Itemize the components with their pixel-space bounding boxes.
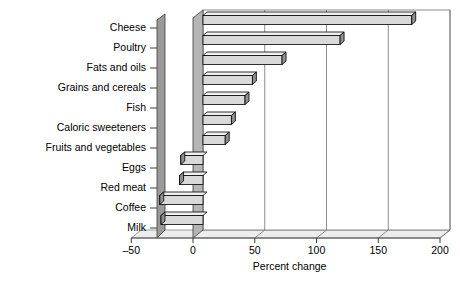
bar-10 xyxy=(161,212,207,225)
bar-face-9 xyxy=(160,196,203,205)
x-tick-label-0: 0 xyxy=(190,244,196,256)
category-label-5: Caloric sweeteners xyxy=(57,121,146,133)
bar-2 xyxy=(203,52,286,65)
bar-face-6 xyxy=(203,136,225,145)
bar-6 xyxy=(203,132,229,145)
category-label-0: Cheese xyxy=(110,21,146,33)
x-tick-label-50: 50 xyxy=(249,244,261,256)
bar-7 xyxy=(181,152,207,165)
bar-top-2 xyxy=(203,52,286,56)
bar-face-3 xyxy=(203,76,252,85)
category-label-8: Red meat xyxy=(100,181,146,193)
category-label-3: Grains and cereals xyxy=(58,81,146,93)
bar-top-5 xyxy=(203,112,235,116)
category-label-2: Fats and oils xyxy=(86,61,146,73)
x-axis-title: Percent change xyxy=(253,260,327,272)
x-tick-label-200: 200 xyxy=(431,244,449,256)
category-label-4: Fish xyxy=(126,101,146,113)
bar-0 xyxy=(203,12,416,25)
bar-top-1 xyxy=(203,32,344,36)
x-tick-label--50: –50 xyxy=(122,244,140,256)
bar-8 xyxy=(180,172,207,185)
bar-9 xyxy=(160,192,207,205)
bar-face-10 xyxy=(161,216,203,225)
bar-face-4 xyxy=(203,96,245,105)
bar-top-4 xyxy=(203,92,249,96)
bar-top-3 xyxy=(203,72,256,76)
bar-4 xyxy=(203,92,249,105)
bar-5 xyxy=(203,112,235,125)
bar-1 xyxy=(203,32,344,45)
chart-floor xyxy=(131,230,450,238)
bar-3 xyxy=(203,72,256,85)
x-tick-label-100: 100 xyxy=(308,244,326,256)
bar-top-0 xyxy=(203,12,416,16)
bar-face-5 xyxy=(203,116,231,125)
bar-face-0 xyxy=(203,16,412,25)
bar-face-1 xyxy=(203,36,340,45)
category-label-6: Fruits and vegetables xyxy=(46,141,146,153)
category-label-1: Poultry xyxy=(113,41,146,53)
bar-chart: CheesePoultryFats and oilsGrains and cer… xyxy=(0,0,460,287)
category-label-10: Milk xyxy=(127,221,146,233)
bar-face-2 xyxy=(203,56,282,65)
x-tick-label-150: 150 xyxy=(369,244,387,256)
chart-container: CheesePoultryFats and oilsGrains and cer… xyxy=(0,0,460,287)
category-label-7: Eggs xyxy=(122,161,146,173)
category-label-9: Coffee xyxy=(115,201,146,213)
bar-top-9 xyxy=(160,192,207,196)
bar-top-10 xyxy=(161,212,207,216)
